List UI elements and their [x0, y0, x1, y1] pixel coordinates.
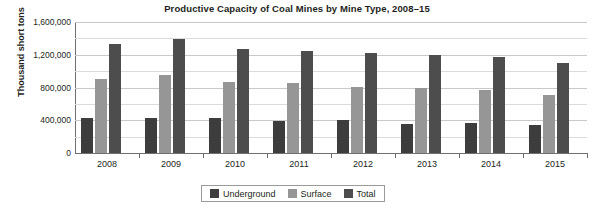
bar-total-2010	[237, 49, 249, 153]
bar-underground-2008	[81, 118, 93, 153]
bar-surface-2012	[351, 87, 363, 153]
bar-group-2008	[75, 22, 139, 153]
x-tick-label-2011: 2011	[267, 159, 331, 169]
bar-underground-2010	[209, 118, 221, 153]
x-tick-label-2010: 2010	[203, 159, 267, 169]
bar-group-2014	[459, 22, 523, 153]
x-tick-label-2008: 2008	[75, 159, 139, 169]
bar-group-2010	[203, 22, 267, 153]
legend-item-total: Total	[344, 189, 376, 199]
x-axis-tick	[459, 153, 460, 158]
bar-total-2011	[301, 51, 313, 153]
x-axis-tick	[587, 153, 588, 158]
legend-label-surface: Surface	[301, 189, 332, 199]
legend-label-underground: Underground	[223, 189, 276, 199]
y-tick-label: 1,200,000	[1, 51, 71, 60]
bar-underground-2015	[529, 125, 541, 153]
legend-swatch-underground	[210, 189, 219, 198]
bar-underground-2013	[401, 124, 413, 153]
legend-item-surface: Surface	[288, 189, 332, 199]
legend-label-total: Total	[357, 189, 376, 199]
bar-group-2012	[331, 22, 395, 153]
bar-total-2012	[365, 53, 377, 153]
x-tick-label-2014: 2014	[459, 159, 523, 169]
bar-group-2009	[139, 22, 203, 153]
bar-surface-2014	[479, 90, 491, 153]
legend-swatch-total	[344, 189, 353, 198]
plot-area: 1,600,0001,200,000800,000400,00002008200…	[75, 22, 587, 153]
bar-surface-2009	[159, 75, 171, 153]
y-tick-label: 400,000	[1, 116, 71, 125]
bar-surface-2010	[223, 82, 235, 153]
bar-group-2011	[267, 22, 331, 153]
bar-surface-2015	[543, 95, 555, 153]
x-axis-tick	[523, 153, 524, 158]
chart-title: Productive Capacity of Coal Mines by Min…	[0, 3, 594, 14]
bar-group-2015	[523, 22, 587, 153]
bar-total-2008	[109, 44, 121, 153]
bar-surface-2008	[95, 79, 107, 153]
chart-legend: UndergroundSurfaceTotal	[201, 185, 385, 202]
bar-surface-2013	[415, 88, 427, 154]
x-tick-label-2013: 2013	[395, 159, 459, 169]
bar-underground-2011	[273, 121, 285, 153]
x-axis-tick	[203, 153, 204, 158]
y-tick-label: 1,600,000	[1, 18, 71, 27]
bar-underground-2012	[337, 120, 349, 153]
bar-total-2015	[557, 63, 569, 153]
bar-underground-2014	[465, 123, 477, 153]
x-tick-label-2015: 2015	[523, 159, 587, 169]
y-tick-label: 800,000	[1, 84, 71, 93]
x-axis-tick	[139, 153, 140, 158]
y-tick-label: 0	[1, 149, 71, 158]
chart-figure: Productive Capacity of Coal Mines by Min…	[0, 0, 594, 212]
bar-underground-2009	[145, 118, 157, 153]
legend-swatch-surface	[288, 189, 297, 198]
x-axis-tick	[331, 153, 332, 158]
x-tick-label-2012: 2012	[331, 159, 395, 169]
legend-item-underground: Underground	[210, 189, 276, 199]
x-tick-label-2009: 2009	[139, 159, 203, 169]
x-axis-tick	[395, 153, 396, 158]
x-axis-tick	[267, 153, 268, 158]
bar-surface-2011	[287, 83, 299, 153]
bar-total-2009	[173, 39, 185, 153]
bar-total-2014	[493, 57, 505, 153]
bar-total-2013	[429, 55, 441, 153]
bar-group-2013	[395, 22, 459, 153]
